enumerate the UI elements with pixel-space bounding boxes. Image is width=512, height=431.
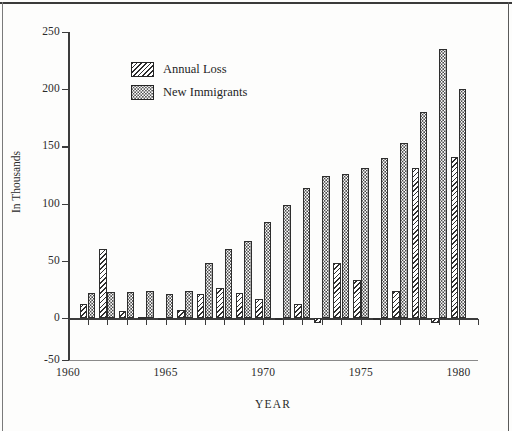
- x-tick-mark: [439, 319, 440, 325]
- bar-new-immigrants-1970: [264, 222, 272, 318]
- x-tick-mark: [263, 319, 264, 325]
- x-tick-mark: [185, 319, 186, 325]
- bar-new-immigrants-1972: [303, 188, 311, 318]
- bar-new-immigrants-1968: [225, 249, 233, 318]
- x-tick-mark: [400, 319, 401, 325]
- bar-new-immigrants-1969: [244, 241, 252, 318]
- x-tick-mark: [127, 319, 128, 325]
- chart-page: -50050100150200250 19601965197019751980 …: [0, 0, 512, 431]
- bar-new-immigrants-1962: [107, 292, 115, 318]
- bar-new-immigrants-1980: [459, 89, 467, 318]
- legend-label-annual-loss: Annual Loss: [163, 63, 227, 76]
- x-tick-mark: [478, 319, 479, 325]
- x-tick-mark: [205, 319, 206, 325]
- bar-new-immigrants-1966: [185, 291, 193, 319]
- bar-annual-loss-1973: [314, 318, 322, 323]
- bar-annual-loss-1965: [158, 318, 166, 320]
- x-tick-mark: [107, 319, 108, 325]
- bar-annual-loss-1976: [373, 318, 381, 320]
- y-tick-label: 100: [20, 198, 60, 210]
- bar-annual-loss-1977: [392, 291, 400, 319]
- y-tick-mark: [62, 32, 69, 33]
- x-tick-label: 1980: [436, 366, 482, 378]
- bar-new-immigrants-1967: [205, 263, 213, 318]
- chart-legend: Annual Loss New Immigrants: [131, 58, 247, 104]
- x-tick-mark: [283, 319, 284, 325]
- x-tick-mark: [361, 319, 362, 325]
- y-tick-mark: [62, 146, 69, 147]
- bar-new-immigrants-1961: [88, 293, 96, 318]
- y-tick-mark: [62, 89, 69, 90]
- bar-annual-loss-1970: [255, 299, 263, 318]
- x-axis-zero-line: [68, 318, 478, 320]
- x-tick-mark: [341, 319, 342, 325]
- x-tick-mark: [88, 319, 89, 325]
- x-axis-title: YEAR: [68, 398, 478, 410]
- bar-annual-loss-1971: [275, 318, 283, 320]
- legend-swatch-new-immigrants-icon: [131, 85, 154, 100]
- legend-item-annual-loss: Annual Loss: [131, 58, 247, 81]
- y-tick-label: 150: [20, 140, 60, 152]
- bar-new-immigrants-1974: [342, 174, 350, 318]
- x-tick-mark: [224, 319, 225, 325]
- bar-new-immigrants-1965: [166, 294, 174, 318]
- x-tick-mark: [322, 319, 323, 325]
- x-axis-baseline: [68, 360, 478, 361]
- bar-annual-loss-1963: [119, 311, 127, 318]
- bar-annual-loss-1969: [236, 293, 244, 318]
- bar-annual-loss-1962: [99, 249, 107, 318]
- y-tick-label: 50: [20, 255, 60, 267]
- x-tick-label: 1960: [45, 366, 91, 378]
- x-tick-mark: [459, 319, 460, 325]
- x-tick-mark: [244, 319, 245, 325]
- x-tick-mark: [146, 319, 147, 325]
- bar-new-immigrants-1975: [361, 168, 369, 318]
- bar-annual-loss-1978: [412, 168, 420, 318]
- x-tick-mark: [419, 319, 420, 325]
- bar-annual-loss-1966: [177, 310, 185, 318]
- bar-new-immigrants-1978: [420, 112, 428, 318]
- y-tick-mark: [62, 204, 69, 205]
- bar-annual-loss-1968: [216, 288, 224, 318]
- bar-annual-loss-1961: [80, 304, 88, 318]
- y-tick-label: -50: [20, 354, 60, 366]
- bar-chart-plot: -50050100150200250 19601965197019751980 …: [0, 0, 512, 431]
- bar-annual-loss-1979: [431, 318, 439, 323]
- y-tick-label: 250: [20, 26, 60, 38]
- y-axis-line: [68, 32, 70, 361]
- y-tick-label: 0: [20, 312, 60, 324]
- bar-annual-loss-1967: [197, 294, 205, 318]
- x-tick-mark: [302, 319, 303, 325]
- bar-new-immigrants-1977: [400, 143, 408, 318]
- bar-new-immigrants-1971: [283, 205, 291, 318]
- legend-swatch-annual-loss-icon: [131, 62, 154, 77]
- bar-new-immigrants-1976: [381, 158, 389, 318]
- bar-new-immigrants-1964: [146, 291, 154, 319]
- y-axis-title: In Thousands: [10, 122, 22, 242]
- legend-label-new-immigrants: New Immigrants: [163, 86, 247, 99]
- y-tick-mark: [62, 360, 69, 361]
- bar-annual-loss-1974: [333, 263, 341, 318]
- bar-annual-loss-1964: [138, 317, 146, 319]
- x-tick-mark: [166, 319, 167, 325]
- bar-new-immigrants-1963: [127, 292, 135, 318]
- bar-annual-loss-1975: [353, 280, 361, 318]
- x-tick-mark: [380, 319, 381, 325]
- y-tick-mark: [62, 261, 69, 262]
- bar-new-immigrants-1979: [439, 49, 447, 318]
- x-tick-label: 1970: [240, 366, 286, 378]
- x-tick-label: 1975: [338, 366, 384, 378]
- y-tick-label: 200: [20, 83, 60, 95]
- x-tick-label: 1965: [143, 366, 189, 378]
- legend-item-new-immigrants: New Immigrants: [131, 81, 247, 104]
- bar-annual-loss-1980: [451, 157, 459, 318]
- x-tick-mark: [68, 319, 69, 325]
- bar-annual-loss-1972: [294, 304, 302, 318]
- bar-new-immigrants-1973: [322, 176, 330, 318]
